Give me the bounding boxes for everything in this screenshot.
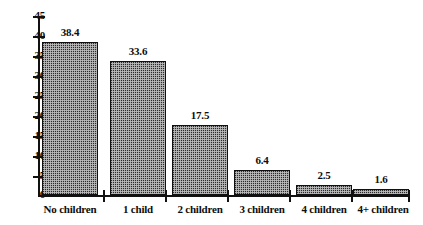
y-tick-30: 30 [0,76,45,78]
y-tick-10: 10 [0,156,45,158]
y-tick-mark-45 [33,16,45,18]
bar-value-4-children: 2.5 [296,170,352,181]
bar-no-children [42,42,98,195]
y-tick-45: 45 [0,16,45,18]
y-tick-20: 20 [0,116,45,118]
y-tick-15: 15 [0,136,45,138]
bar-value-4plus-children: 1.6 [353,174,409,185]
bar-value-3-children: 6.4 [234,155,290,166]
x-axis-line [38,195,410,197]
y-tick-5: 5 [0,176,45,178]
bar-3-children [234,170,290,195]
x-tick-mark-1 [103,190,105,202]
bar-value-no-children: 38.4 [42,27,98,38]
category-label-no-children: No children [32,203,108,216]
y-tick-35: 35 [0,56,45,58]
bar-1-child [110,61,166,195]
bar-chart: 45 40 35 30 25 20 15 10 5 0 [0,0,423,225]
y-tick-25: 25 [0,96,45,98]
bar-2-children [172,125,228,195]
bar-4-children [296,185,352,195]
bar-4plus-children [353,189,409,195]
y-tick-40: 40 [0,36,45,38]
bar-value-2-children: 17.5 [172,110,228,121]
bar-value-1-child: 33.6 [110,46,166,57]
category-label-4plus-children: 4+ children [345,203,421,216]
